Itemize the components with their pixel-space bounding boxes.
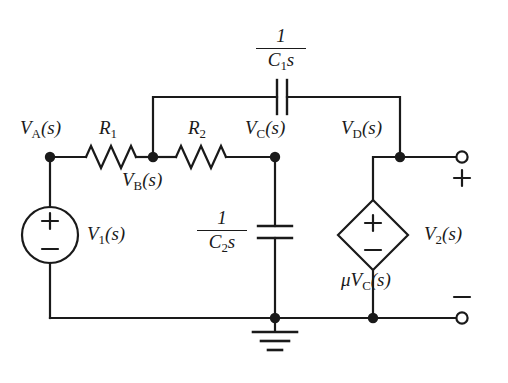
c2-den-s: s <box>228 231 235 252</box>
vb-subscript: B <box>134 178 143 193</box>
schematic-canvas <box>0 0 508 383</box>
dep-vc-arg: (s) <box>371 269 391 290</box>
v2-base: V <box>424 223 436 244</box>
junction-dot-ground <box>270 313 280 323</box>
v2-arg: (s) <box>442 223 462 244</box>
junction-dot-vd <box>395 152 405 162</box>
c2-denominator: C2s <box>197 231 247 255</box>
r1-base: R <box>99 117 111 138</box>
va-arg: (s) <box>41 117 61 138</box>
vd-base: V <box>341 117 353 138</box>
v1-base: V <box>87 223 99 244</box>
node-label-vb: VB(s) <box>122 170 162 193</box>
wire-vd-to-dependent-source <box>373 157 400 200</box>
junction-dot-source-bottom <box>368 313 378 323</box>
node-label-vd: VD(s) <box>341 118 382 141</box>
junction-dot-va <box>45 152 55 162</box>
source-label-v1: V1(s) <box>87 224 125 247</box>
node-label-vc: VC(s) <box>245 118 285 141</box>
vd-arg: (s) <box>362 117 382 138</box>
component-label-r2: R2 <box>188 118 206 141</box>
va-base: V <box>20 117 32 138</box>
component-label-c2-impedance: 1 C2s <box>197 208 247 255</box>
dependent-source-label: μVC(s) <box>341 270 391 293</box>
junction-dot-vc <box>270 152 280 162</box>
dependent-source-diamond <box>338 200 408 270</box>
output-terminal-negative <box>456 312 467 323</box>
c1-den-base: C <box>268 49 281 70</box>
r2-subscript: 2 <box>200 126 206 141</box>
vc-base: V <box>245 117 257 138</box>
vb-base: V <box>122 169 134 190</box>
vc-arg: (s) <box>265 117 285 138</box>
mu-symbol: μ <box>341 269 351 290</box>
resistor-r2-zigzag <box>176 146 226 168</box>
c2-numerator: 1 <box>197 208 247 230</box>
vc-subscript: C <box>257 126 266 141</box>
r2-base: R <box>188 117 200 138</box>
junction-dot-vb <box>148 152 158 162</box>
dep-vc-base: V <box>351 269 363 290</box>
va-subscript: A <box>32 126 41 141</box>
output-terminal-positive <box>456 151 467 162</box>
c1-denominator: C1s <box>256 49 306 73</box>
component-label-r1: R1 <box>99 118 117 141</box>
vd-subscript: D <box>353 126 362 141</box>
vb-arg: (s) <box>142 169 162 190</box>
c2-den-base: C <box>209 231 222 252</box>
node-label-va: VA(s) <box>20 118 61 141</box>
component-label-c1-impedance: 1 C1s <box>256 26 306 73</box>
c1-den-s: s <box>287 49 294 70</box>
r1-subscript: 1 <box>111 126 117 141</box>
output-label-v2: V2(s) <box>424 224 462 247</box>
circuit-diagram-figure: VA(s) VB(s) VC(s) VD(s) R1 R2 1 C1s 1 C2… <box>0 0 508 383</box>
c1-numerator: 1 <box>256 26 306 48</box>
resistor-r1-zigzag <box>86 146 136 168</box>
dep-vc-subscript: C <box>362 278 371 293</box>
v1-arg: (s) <box>105 223 125 244</box>
